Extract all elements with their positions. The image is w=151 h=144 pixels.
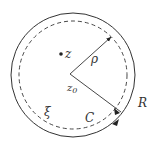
label-z0: z0 bbox=[66, 82, 77, 95]
label-xi: ξ bbox=[44, 105, 52, 119]
point-z bbox=[59, 52, 63, 56]
label-z: z bbox=[64, 47, 72, 61]
label-R: R bbox=[137, 96, 147, 110]
label-rho: ρ bbox=[90, 52, 98, 66]
outer-circle-R bbox=[11, 13, 135, 137]
label-z0-sub: 0 bbox=[72, 86, 77, 95]
contour-diagram: z ρ z0 ξ C R bbox=[0, 0, 151, 144]
label-C: C bbox=[85, 111, 94, 125]
radius-R-line bbox=[70, 74, 121, 112]
